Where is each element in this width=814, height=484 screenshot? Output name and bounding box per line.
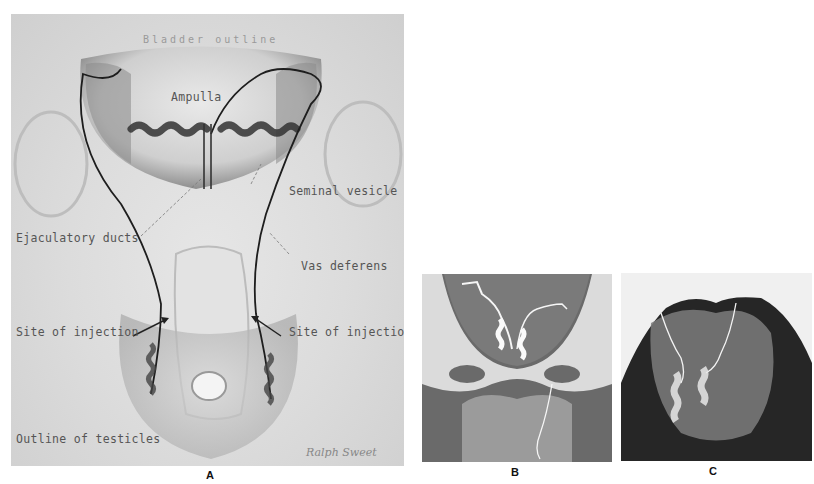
artist-signature: Ralph Sweet bbox=[306, 446, 377, 459]
panel-c-letter: C bbox=[709, 465, 717, 477]
site-of-injection-right-label: Site of injection bbox=[289, 325, 404, 339]
ejaculatory-ducts-label: Ejaculatory ducts bbox=[16, 231, 139, 245]
seminal-vesicle-label: Seminal vesicle bbox=[289, 184, 397, 198]
vas-deferens-label: Vas deferens bbox=[301, 259, 388, 273]
panel-a-letter: A bbox=[206, 469, 214, 481]
bladder-outline-label: Bladder outline bbox=[143, 34, 278, 45]
xray-b bbox=[422, 274, 612, 462]
panel-c-radiograph bbox=[621, 273, 812, 461]
ampulla-label: Ampulla bbox=[171, 90, 222, 104]
panel-a-illustration: Bladder outline Ampulla Seminal vesicle … bbox=[11, 14, 404, 466]
outline-of-testicles-label: Outline of testicles bbox=[16, 432, 160, 446]
site-of-injection-left-label: Site of injection bbox=[16, 325, 139, 339]
xray-c bbox=[621, 273, 812, 461]
panel-b-radiograph bbox=[422, 274, 612, 462]
panel-b-letter: B bbox=[511, 466, 519, 478]
